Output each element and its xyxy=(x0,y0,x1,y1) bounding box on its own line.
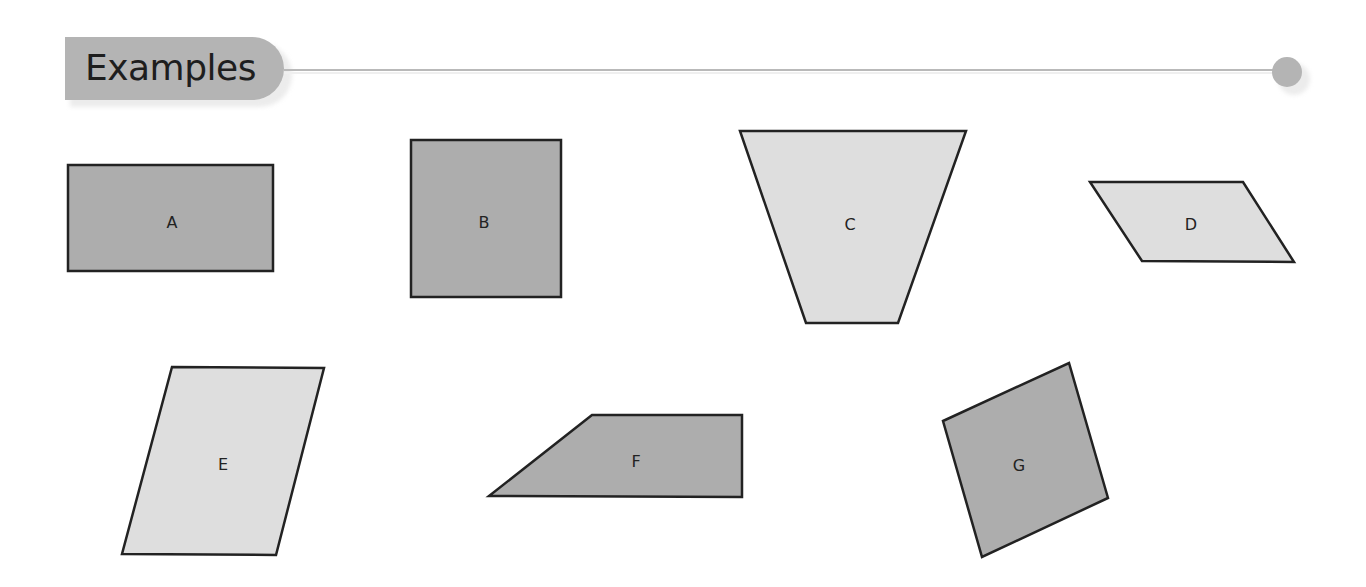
shapes-canvas xyxy=(0,0,1366,587)
shape-g-rhombus xyxy=(943,363,1108,557)
shape-label-b: B xyxy=(479,215,490,231)
shape-label-e: E xyxy=(218,457,228,473)
shape-label-d: D xyxy=(1185,217,1197,233)
shape-f-trapezoid xyxy=(489,415,742,497)
shape-label-a: A xyxy=(167,215,178,231)
shape-label-g: G xyxy=(1013,458,1025,474)
shape-label-c: C xyxy=(844,217,855,233)
shape-label-f: F xyxy=(631,454,640,470)
